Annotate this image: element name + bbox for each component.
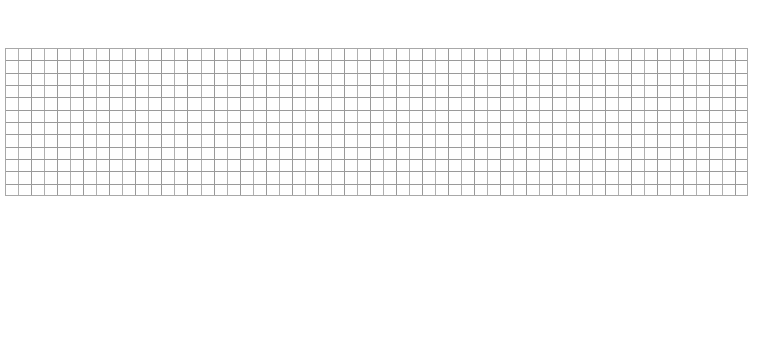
grid-region bbox=[5, 48, 748, 196]
screenshot-canvas bbox=[0, 0, 765, 348]
bottom-blank-region bbox=[0, 197, 765, 348]
top-blank-region bbox=[0, 0, 765, 47]
grid-svg bbox=[5, 48, 748, 196]
